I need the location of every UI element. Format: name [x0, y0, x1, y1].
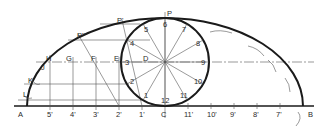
baseline-label: 9': [230, 110, 236, 119]
label-P-double-prime: P'': [77, 31, 85, 40]
circle-label-3: 3: [125, 58, 129, 67]
label-D: D: [143, 54, 149, 63]
baseline-label: 5': [47, 110, 53, 119]
label-G: G: [66, 54, 72, 63]
arc-mark-5: [296, 112, 300, 126]
baseline-label: 10': [207, 110, 217, 119]
arc-mark-4: [285, 78, 290, 92]
label-P: P: [167, 9, 172, 18]
baseline-label: 2': [116, 110, 122, 119]
circle-label-2: 2: [130, 77, 134, 86]
arc-mark-1: [210, 31, 232, 33]
baseline-label: 11': [184, 110, 194, 119]
baseline-label: 8': [253, 110, 259, 119]
circle-label-11: 11: [180, 91, 188, 100]
diagonal-p2-2: [78, 34, 119, 106]
label-E: E: [114, 54, 119, 63]
circle-label-7: 7: [182, 25, 186, 34]
label-H: H: [46, 54, 51, 63]
label-B: B: [308, 110, 313, 119]
circle-label-6: 6: [163, 20, 167, 29]
baseline-label: 1': [139, 110, 145, 119]
circle-label-10: 10: [194, 77, 202, 86]
baseline-label: 4': [70, 110, 76, 119]
circle-label-1: 1: [144, 91, 148, 100]
circle-label-8: 8: [196, 39, 200, 48]
circle-label-4: 4: [130, 39, 134, 48]
label-F: F: [91, 54, 96, 63]
label-P-prime: P': [117, 16, 124, 25]
circle-label-9: 9: [201, 58, 205, 67]
baseline-label: 7': [276, 110, 282, 119]
ellipse-construction-diagram: A B C D E F G H J K L P P' P'' 123456789…: [0, 0, 329, 133]
label-L: L: [23, 90, 27, 99]
label-K: K: [28, 76, 33, 85]
baseline-label: 3': [93, 110, 99, 119]
arc-mark-2: [248, 46, 264, 56]
label-J: J: [41, 63, 45, 72]
label-C: C: [161, 110, 167, 119]
circle-label-5: 5: [144, 25, 148, 34]
circle-label-12: 12: [161, 96, 169, 105]
label-A: A: [18, 110, 23, 119]
